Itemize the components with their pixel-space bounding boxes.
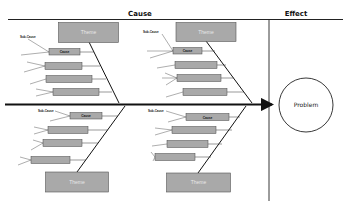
problem-node[interactable]: Problem bbox=[279, 78, 333, 132]
cause-label: Cause bbox=[183, 49, 193, 53]
theme-box[interactable]: Theme bbox=[59, 23, 119, 43]
theme-label: Theme bbox=[69, 179, 85, 185]
branch-top-left: Theme Sub-Cause Cause bbox=[20, 23, 119, 104]
cause-label: Cause bbox=[81, 114, 91, 118]
branch-bottom-left: Theme Sub-Cause Cause bbox=[18, 106, 125, 192]
cause-label: Cause bbox=[203, 116, 213, 120]
cause-box[interactable] bbox=[53, 89, 99, 96]
sub-cause-label: Sub-Cause bbox=[20, 35, 36, 39]
cause-box[interactable] bbox=[167, 141, 208, 148]
theme-box[interactable]: Theme bbox=[176, 23, 236, 42]
cause-box[interactable] bbox=[172, 127, 216, 134]
cause-box[interactable] bbox=[155, 154, 195, 161]
theme-box[interactable]: Theme bbox=[46, 172, 109, 192]
cause-box[interactable]: Cause bbox=[70, 113, 102, 120]
cause-box[interactable] bbox=[183, 89, 227, 96]
cause-heading: Cause bbox=[128, 10, 152, 18]
sub-cause-label: Sub-Cause bbox=[143, 30, 159, 34]
problem-label: Problem bbox=[294, 101, 319, 108]
fishbone-diagram: Cause Effect Problem Theme Sub-Cause Cau… bbox=[0, 0, 346, 201]
cause-box[interactable]: Cause bbox=[49, 49, 80, 56]
branch-top-right: Theme Sub-Cause Cause bbox=[143, 23, 252, 104]
theme-label: Theme bbox=[81, 29, 97, 35]
cause-box[interactable] bbox=[31, 157, 70, 164]
cause-box[interactable] bbox=[43, 140, 82, 147]
cause-box[interactable] bbox=[46, 76, 92, 83]
theme-label: Theme bbox=[191, 179, 207, 185]
theme-box[interactable]: Theme bbox=[167, 173, 231, 192]
cause-box[interactable] bbox=[48, 127, 88, 134]
cause-box[interactable] bbox=[175, 62, 217, 69]
sub-cause-label: Sub-Cause bbox=[38, 109, 54, 113]
cause-box[interactable]: Cause bbox=[173, 48, 202, 55]
cause-box[interactable] bbox=[45, 63, 82, 70]
cause-label: Cause bbox=[60, 50, 70, 54]
cause-box[interactable]: Cause bbox=[186, 114, 229, 121]
cause-box[interactable] bbox=[177, 75, 221, 82]
sub-cause-label: Sub-Cause bbox=[148, 109, 164, 113]
theme-label: Theme bbox=[198, 29, 214, 35]
branch-bottom-right: Theme Sub-Cause Cause bbox=[148, 106, 246, 192]
effect-heading: Effect bbox=[285, 10, 308, 18]
